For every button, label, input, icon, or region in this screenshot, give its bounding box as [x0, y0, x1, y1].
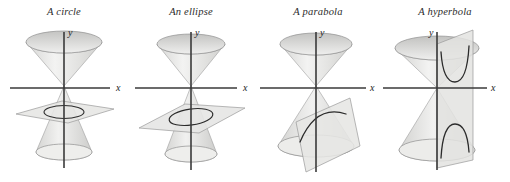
conic-sections-figure: A circle: [0, 0, 510, 182]
x-axis-label: x: [115, 82, 121, 93]
ellipse-diagram: x y: [127, 0, 255, 182]
x-axis-label: x: [242, 82, 248, 93]
y-axis-label: y: [319, 27, 325, 38]
cutting-plane: [16, 101, 114, 123]
panel-ellipse: An ellipse: [127, 0, 255, 182]
circle-diagram: x y: [0, 0, 128, 182]
parabola-diagram: x y: [254, 0, 382, 182]
y-axis-label: y: [428, 27, 434, 38]
x-axis-label: x: [369, 82, 375, 93]
y-axis-label: y: [194, 27, 200, 38]
panel-hyperbola: A hyperbola: [381, 0, 509, 182]
panel-parabola: A parabola: [254, 0, 382, 182]
x-axis-label: x: [490, 82, 496, 93]
hyperbola-diagram: x y: [381, 0, 510, 182]
panel-circle: A circle: [0, 0, 128, 182]
y-axis-label: y: [67, 27, 73, 38]
